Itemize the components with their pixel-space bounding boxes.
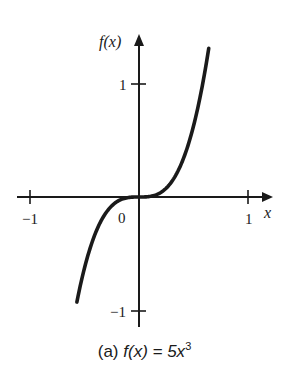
x-axis-arrow-icon bbox=[262, 192, 273, 202]
x-tick-label-pos1: 1 bbox=[245, 211, 253, 227]
y-axis-arrow-icon bbox=[134, 34, 144, 46]
x-tick-label-neg1: −1 bbox=[22, 211, 38, 227]
x-axis-label: x bbox=[263, 204, 271, 221]
y-tick-label-pos1: 1 bbox=[119, 77, 127, 93]
y-axis-label: f(x) bbox=[99, 33, 121, 51]
cubic-curve bbox=[77, 48, 209, 302]
caption-exponent: 3 bbox=[185, 340, 191, 352]
cubic-function-chart: −1 1 0 1 −1 x f(x) bbox=[0, 0, 289, 373]
origin-label: 0 bbox=[118, 210, 126, 226]
caption-function: f(x) = 5x bbox=[123, 342, 185, 361]
y-tick-label-neg1: −1 bbox=[110, 304, 126, 320]
caption-prefix: (a) bbox=[98, 342, 119, 361]
figure-caption: (a) f(x) = 5x3 bbox=[0, 340, 289, 362]
